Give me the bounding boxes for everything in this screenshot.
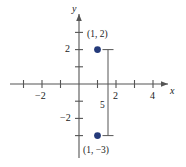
distance-label: 5 <box>100 101 105 111</box>
y-tick-label-2: 2 <box>65 44 70 54</box>
y-axis-arrow-icon <box>76 14 82 21</box>
x-axis-arrow-icon <box>161 81 168 87</box>
x-tick-label-4: 4 <box>150 91 155 101</box>
y-axis-label: y <box>72 4 76 14</box>
x-axis-label: x <box>170 86 174 96</box>
x-tick-label-2: 2 <box>113 91 118 101</box>
cartesian-axes-svg <box>0 0 186 167</box>
point-label-top: (1, 2) <box>87 30 108 40</box>
data-point-1-2 <box>94 46 101 53</box>
coordinate-plane-figure: x y −2 2 4 2 −2 (1, 2) (1, −3) 5 <box>0 0 186 167</box>
point-label-bottom: (1, −3) <box>83 146 109 156</box>
x-tick-label-neg2: −2 <box>35 91 46 101</box>
data-point-1-neg3 <box>94 132 101 139</box>
y-tick-label-neg2: −2 <box>60 113 71 123</box>
distance-dimension-line <box>103 50 114 136</box>
